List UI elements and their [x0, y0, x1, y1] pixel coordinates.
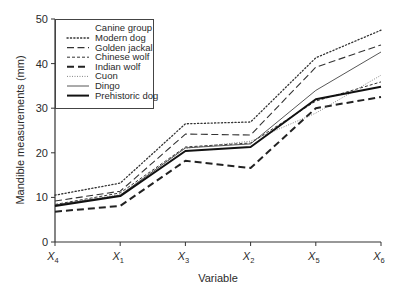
legend: Canine groupModern dogGolden jackalChine… — [56, 20, 159, 109]
x-tick-label: X4 — [46, 250, 59, 265]
legend-label: Prehistoric dog — [95, 90, 158, 101]
y-tick-label: 40 — [36, 58, 48, 70]
x-tick-label: X1 — [111, 250, 124, 265]
line-chart: 01020304050X4X1X3X2X5X6 Canine groupMode… — [0, 0, 399, 297]
x-tick-label: X5 — [307, 250, 320, 265]
y-tick-label: 10 — [36, 191, 48, 203]
x-tick-label: X3 — [177, 250, 190, 265]
y-axis-title: Mandible measurements (mm) — [14, 55, 26, 204]
y-tick-label: 0 — [42, 236, 48, 248]
x-tick-label: X2 — [242, 250, 255, 265]
x-tick-label: X6 — [372, 250, 385, 265]
y-tick-label: 20 — [36, 147, 48, 159]
x-axis-title: Variable — [198, 272, 238, 284]
y-tick-label: 30 — [36, 102, 48, 114]
series-line-indian-wolf — [55, 97, 381, 212]
y-tick-label: 50 — [36, 13, 48, 25]
